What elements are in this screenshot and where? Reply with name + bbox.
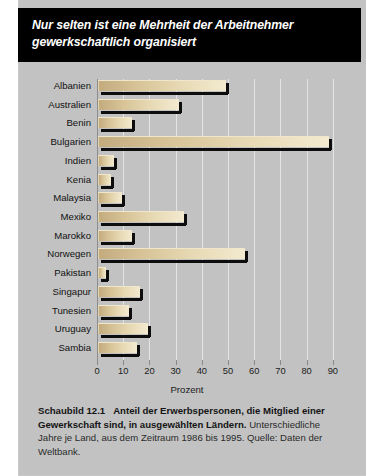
- bar: [98, 80, 226, 92]
- bar: [98, 155, 114, 167]
- bar: [98, 323, 148, 335]
- figure-caption: Schaubild 12.1 Anteil der Erwerbspersone…: [38, 404, 343, 458]
- figure-page: Nur selten ist eine Mehrheit der Arbeitn…: [0, 0, 374, 476]
- category-label: Benin: [1, 117, 91, 128]
- bar-fill: [98, 267, 106, 278]
- bar: [98, 248, 245, 260]
- category-label: Uruguay: [1, 323, 91, 334]
- bar: [98, 267, 106, 279]
- x-axis-tick-label: 40: [197, 366, 207, 376]
- gridline: [228, 79, 229, 360]
- x-axis-tick: [149, 360, 150, 365]
- bar: [98, 342, 137, 354]
- caption-figure-number: Schaubild 12.1: [38, 405, 105, 416]
- x-axis-tick-label: 80: [301, 366, 311, 376]
- category-label: Sambia: [1, 342, 91, 353]
- x-axis-tick-label: 50: [223, 366, 233, 376]
- x-axis-tick: [307, 360, 308, 365]
- bar-fill: [98, 80, 226, 91]
- x-axis-tick-label: 60: [249, 366, 259, 376]
- bar: [98, 211, 184, 223]
- x-axis-tick: [254, 360, 255, 365]
- bar-fill: [98, 248, 245, 259]
- bar-fill: [98, 323, 148, 334]
- bar-fill: [98, 211, 184, 222]
- gridline: [254, 79, 255, 360]
- x-axis-tick: [228, 360, 229, 365]
- x-axis-tick-label: 30: [170, 366, 180, 376]
- x-axis-tick: [280, 360, 281, 365]
- x-axis-tick-label: 0: [94, 366, 99, 376]
- bar-fill: [98, 155, 114, 166]
- gridline: [333, 79, 334, 360]
- gridline: [280, 79, 281, 360]
- bar-fill: [98, 305, 129, 316]
- bar-fill: [98, 99, 179, 110]
- category-label: Mexiko: [1, 211, 91, 222]
- x-axis-tick: [333, 360, 334, 365]
- x-axis-tick-label: 70: [275, 366, 285, 376]
- category-label: Kenia: [1, 174, 91, 185]
- category-label: Bulgarien: [1, 136, 91, 147]
- category-label: Indien: [1, 155, 91, 166]
- category-label: Albanien: [1, 80, 91, 91]
- bar: [98, 286, 140, 298]
- bar-fill: [98, 342, 137, 353]
- x-axis-tick: [123, 360, 124, 365]
- bar: [98, 117, 132, 129]
- bar-fill: [98, 286, 140, 297]
- bar: [98, 99, 179, 111]
- page-right-margin: [366, 0, 374, 476]
- category-label: Tunesien: [1, 305, 91, 316]
- bar: [98, 192, 122, 204]
- bar-fill: [98, 136, 329, 147]
- x-axis-tick: [97, 360, 98, 365]
- gridline: [307, 79, 308, 360]
- x-axis-title: Prozent: [0, 384, 374, 395]
- bar-fill: [98, 117, 132, 128]
- bar: [98, 230, 132, 242]
- x-axis-tick: [176, 360, 177, 365]
- bar: [98, 174, 111, 186]
- category-label: Singapur: [1, 286, 91, 297]
- bar-fill: [98, 192, 122, 203]
- bar: [98, 136, 329, 148]
- x-axis-tick-label: 10: [118, 366, 128, 376]
- x-axis-tick: [202, 360, 203, 365]
- bar-fill: [98, 174, 111, 185]
- category-label: Pakistan: [1, 267, 91, 278]
- x-axis-tick-label: 20: [144, 366, 154, 376]
- bar: [98, 305, 129, 317]
- category-label: Malaysia: [1, 192, 91, 203]
- title-banner: Nur selten ist eine Mehrheit der Arbeitn…: [18, 8, 361, 62]
- x-axis-tick-label: 90: [328, 366, 338, 376]
- gridline: [202, 79, 203, 360]
- category-label: Norwegen: [1, 248, 91, 259]
- bar-fill: [98, 230, 132, 241]
- category-label: Marokko: [1, 230, 91, 241]
- chart-title: Nur selten ist eine Mehrheit der Arbeitn…: [32, 17, 347, 50]
- category-label: Australien: [1, 99, 91, 110]
